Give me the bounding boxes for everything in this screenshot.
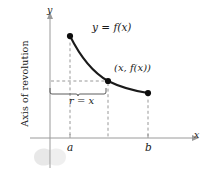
revolution-swirl-icon [34, 148, 66, 165]
x-tick-label-a: a [67, 142, 73, 153]
curve-point-label: (x, f(x)) [114, 63, 151, 73]
function-label: y = f(x) [92, 22, 131, 33]
axis-of-revolution-label: Axis of revolution [19, 31, 30, 136]
y-axis-label: y [47, 5, 52, 15]
x-axis [30, 135, 199, 141]
shell-method-figure: y = f(x) (x, f(x)) r = x a b x y Axis of… [0, 0, 205, 175]
curve-point-dot [105, 78, 111, 84]
x-tick-label-b: b [145, 142, 152, 153]
x-axis-label: x [194, 130, 199, 140]
dashed-guides [51, 37, 148, 137]
radius-label: r = x [69, 96, 94, 106]
curve-right-endpoint-dot [145, 90, 151, 96]
curve-left-endpoint-dot [67, 33, 73, 39]
